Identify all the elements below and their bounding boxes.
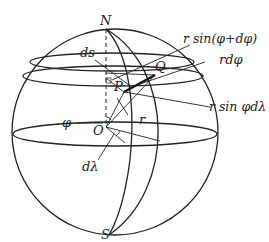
leader-r — [117, 98, 128, 115]
sphere-outline — [12, 29, 218, 235]
leader-rsin-dlambda — [125, 92, 210, 107]
meridian-1 — [106, 29, 132, 235]
label-south: S — [101, 228, 110, 241]
label-phi: φ — [62, 116, 71, 129]
label-o: O — [93, 124, 104, 137]
label-p: P — [114, 80, 123, 93]
angle-dlambda-arc — [116, 131, 120, 136]
label-r: r — [139, 113, 145, 126]
label-r-dphi: rdφ — [219, 53, 243, 66]
label-r-sin-phi-dphi: r sin(φ+dφ) — [183, 33, 257, 46]
label-dlambda: dλ — [82, 160, 99, 173]
label-q: Q — [155, 60, 166, 73]
label-ds: ds — [80, 46, 95, 59]
label-r-sin-phi-dlambda: r sin φdλ — [209, 101, 266, 114]
label-north: N — [100, 14, 111, 27]
